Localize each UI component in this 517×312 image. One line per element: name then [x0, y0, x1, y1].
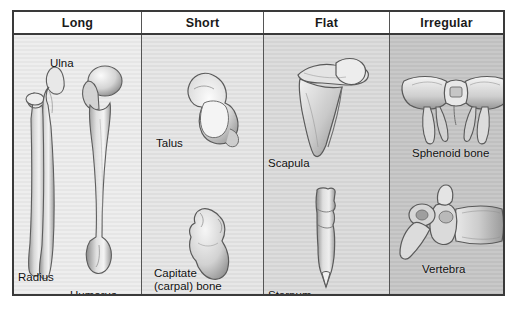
column-header-irregular: Irregular	[390, 12, 503, 33]
column-header-short: Short	[142, 12, 264, 33]
classification-table: Long Short Flat Irregular	[12, 10, 505, 296]
column-header-flat: Flat	[264, 12, 390, 33]
label-scapula: Scapula	[268, 157, 310, 170]
label-talus: Talus	[156, 137, 183, 150]
label-capitate-bone: Capitate (carpal) bone	[154, 267, 222, 293]
label-sternum: Sternum	[268, 289, 311, 294]
label-humerus: Humerus	[70, 289, 117, 294]
sternum-bone-illustration	[304, 185, 348, 294]
label-radius: Radius	[18, 271, 54, 284]
talus-bone-illustration	[174, 63, 252, 155]
table-body-row: Ulna Radius Humerus	[14, 35, 503, 294]
bone-classification-figure: Long Short Flat Irregular	[0, 0, 517, 312]
column-irregular: Sphenoid bone Vertebra	[390, 35, 503, 294]
humerus-bone-illustration	[72, 59, 128, 287]
column-long: Ulna Radius Humerus	[14, 35, 142, 294]
label-ulna: Ulna	[50, 57, 74, 70]
ulna-bone-illustration	[20, 57, 72, 287]
column-short: Talus Capitate (carpal) bone	[142, 35, 264, 294]
column-flat: Scapula Sternum	[264, 35, 390, 294]
label-sphenoid-bone: Sphenoid bone	[412, 147, 489, 160]
sphenoid-bone-illustration	[400, 63, 503, 149]
table-header-row: Long Short Flat Irregular	[14, 12, 503, 35]
scapula-bone-illustration	[282, 49, 378, 167]
column-header-long: Long	[14, 12, 142, 33]
label-vertebra: Vertebra	[422, 263, 465, 276]
